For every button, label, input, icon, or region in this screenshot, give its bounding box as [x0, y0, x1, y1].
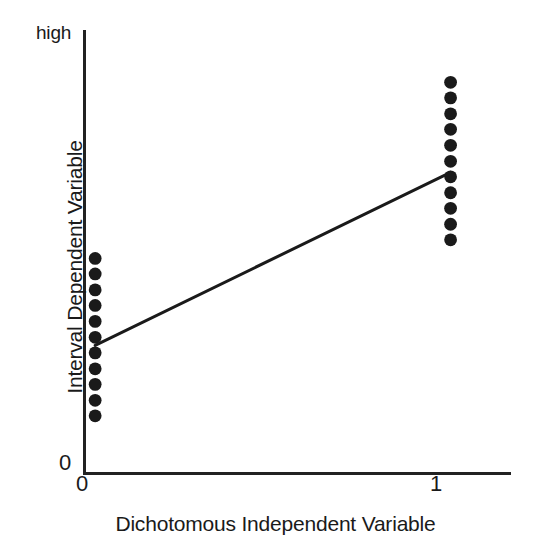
scatter-chart-figure: high 0 0 1 Interval Dependent Variable D… — [0, 0, 551, 551]
regression-line-group — [95, 172, 450, 345]
data-point — [89, 362, 102, 375]
data-point — [444, 170, 457, 183]
y-axis-high-label: high — [36, 22, 71, 44]
series-group-1 — [444, 76, 457, 246]
data-point — [89, 252, 102, 265]
data-point — [444, 91, 457, 104]
data-point — [89, 394, 102, 407]
data-points-group — [89, 76, 457, 422]
x-axis-tick-label-0: 0 — [76, 472, 88, 496]
x-axis-title: Dichotomous Independent Variable — [0, 512, 551, 536]
data-point — [89, 299, 102, 312]
data-point — [444, 123, 457, 136]
data-point — [444, 233, 457, 246]
data-point — [89, 268, 102, 281]
data-point — [89, 378, 102, 391]
data-point — [89, 315, 102, 328]
data-point — [89, 346, 102, 359]
data-point — [89, 409, 102, 422]
data-point — [89, 283, 102, 296]
regression-line — [95, 172, 450, 345]
y-axis-title: Interval Dependent Variable — [63, 72, 87, 462]
data-point — [444, 139, 457, 152]
data-point — [444, 76, 457, 89]
data-point — [444, 186, 457, 199]
data-point — [444, 107, 457, 120]
data-point — [444, 202, 457, 215]
data-point — [444, 155, 457, 168]
data-point — [444, 218, 457, 231]
data-point — [89, 331, 102, 344]
x-axis-tick-label-1: 1 — [430, 472, 442, 496]
series-group-0 — [89, 252, 102, 422]
